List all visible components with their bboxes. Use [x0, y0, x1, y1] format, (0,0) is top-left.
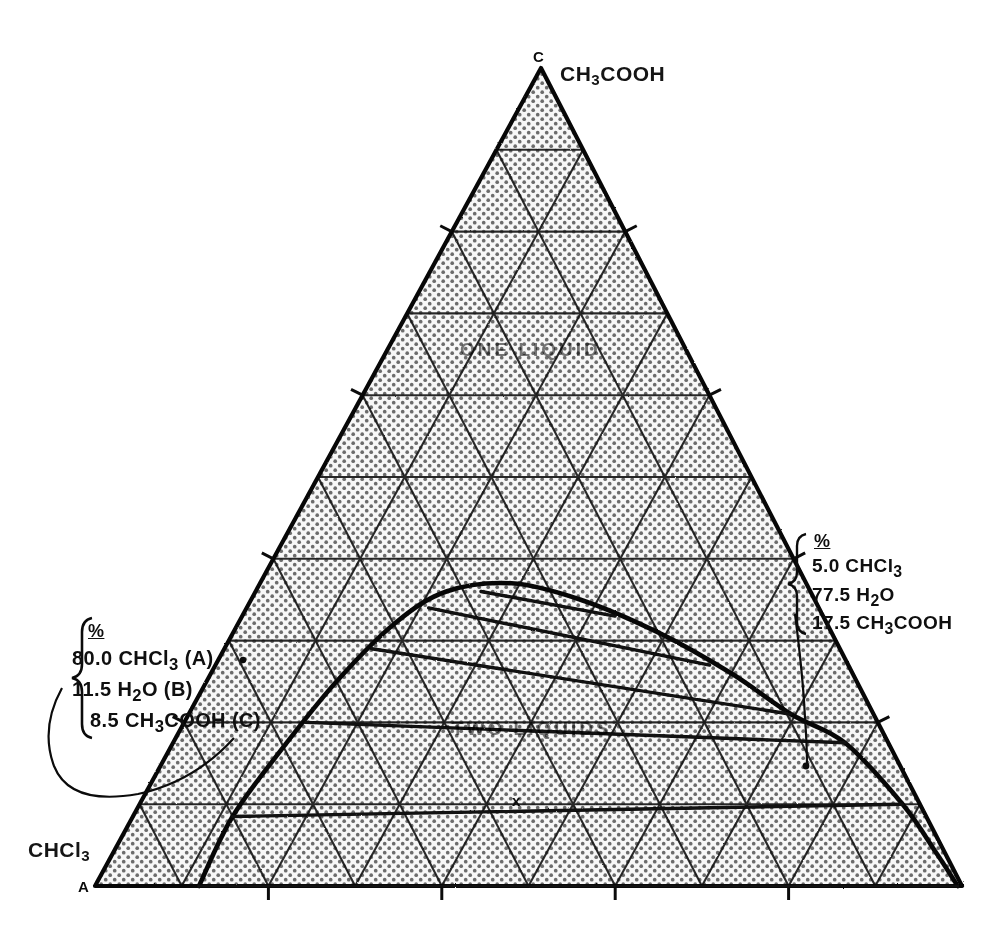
callout-right-row-1: 5.0 CHCl3 — [812, 554, 952, 582]
callout-right-value-1: 5.0 — [812, 555, 840, 576]
left-formula-main: CHCl — [28, 838, 81, 861]
vertex-label-a: A — [78, 878, 89, 895]
vertex-label-c: C — [533, 48, 544, 65]
region-label-two-liquids: TWO LIQUIDS — [452, 718, 612, 740]
apex-formula-tail: COOH — [600, 62, 665, 85]
callout-right: % 5.0 CHCl3 77.5 H2O 17.5 CH3COOH — [812, 530, 952, 639]
callout-right-sub-3: 3 — [885, 620, 894, 637]
callout-left-sub-3: 3 — [155, 717, 165, 736]
phase-diagram-svg — [0, 0, 984, 934]
callout-right-row-3: 17.5 CH3COOH — [812, 611, 952, 639]
callout-right-species-1: CHCl — [845, 555, 893, 576]
component-label-acetic-acid: CH3COOH — [560, 62, 665, 88]
callout-left-row-1: 80.0 CHCl3 (A) — [72, 645, 261, 676]
callout-left: % 80.0 CHCl3 (A) 11.5 H2O (B) 8.5 CH3COO… — [72, 620, 261, 738]
callout-right-value-3: 17.5 — [812, 612, 851, 633]
callout-right-value-2: 77.5 — [812, 584, 851, 605]
callout-right-species-3: CH — [856, 612, 884, 633]
callout-left-tail-2: O — [142, 678, 158, 700]
tie-line-point-marker: x — [512, 792, 520, 809]
callout-right-sub-1: 3 — [893, 563, 902, 580]
callout-left-sub-1: 3 — [169, 655, 179, 674]
callout-left-tail-3: COOH — [164, 709, 226, 731]
callout-left-value-1: 80.0 — [72, 647, 113, 669]
callout-left-row-2: 11.5 H2O (B) — [72, 676, 261, 707]
component-label-chloroform: CHCl3 — [28, 838, 90, 864]
callout-left-tag-1: (A) — [185, 647, 214, 669]
callout-left-header: % — [88, 620, 261, 644]
callout-right-header: % — [814, 530, 952, 553]
callout-left-species-2: H — [117, 678, 132, 700]
callout-right-tail-3: COOH — [894, 612, 953, 633]
callout-left-value-3: 8.5 — [90, 709, 119, 731]
callout-left-row-3: 8.5 CH3COOH (C) — [90, 707, 261, 738]
callout-left-tag-3: (C) — [232, 709, 261, 731]
callout-left-sub-2: 2 — [132, 686, 142, 705]
callout-right-sub-2: 2 — [870, 592, 879, 609]
callout-right-row-2: 77.5 H2O — [812, 583, 952, 611]
region-label-one-liquid: ONE LIQUID — [460, 339, 601, 361]
callout-left-species-3: CH — [125, 709, 155, 731]
ternary-diagram-canvas: C A CH3COOH CHCl3 ONE LIQUID TWO LIQUIDS… — [0, 0, 984, 934]
apex-formula-main: CH — [560, 62, 591, 85]
apex-formula-sub: 3 — [591, 71, 600, 88]
left-formula-sub: 3 — [81, 847, 90, 864]
callout-right-tail-2: O — [880, 584, 895, 605]
callout-left-species-1: CHCl — [119, 647, 170, 669]
callout-left-value-2: 11.5 — [72, 678, 111, 700]
callout-right-species-2: H — [856, 584, 870, 605]
callout-left-tag-2: (B) — [164, 678, 193, 700]
